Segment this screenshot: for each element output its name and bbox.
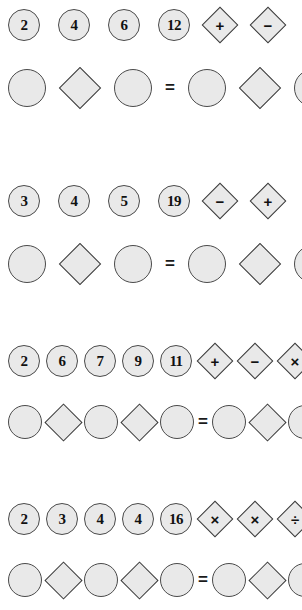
operator-label: ÷: [291, 512, 299, 527]
number-label: 6: [121, 18, 128, 33]
number-label: 4: [71, 18, 78, 33]
number-token[interactable]: 11: [160, 345, 192, 377]
answer-blank-circle[interactable]: [8, 405, 42, 439]
number-token[interactable]: 5: [108, 185, 140, 217]
number-label: 7: [97, 354, 104, 369]
answer-blank-diamond[interactable]: [247, 402, 287, 442]
answer-blank-diamond[interactable]: [43, 560, 83, 600]
diamond-shape: [44, 403, 82, 441]
answer-blank-circle[interactable]: [288, 563, 302, 597]
puzzle-2-answer-row: =: [0, 220, 302, 286]
number-label: 11: [170, 354, 183, 369]
answer-blank-circle[interactable]: [288, 405, 302, 439]
answer-blank-diamond[interactable]: [43, 402, 83, 442]
number-token[interactable]: 4: [58, 185, 90, 217]
diamond-shape: [44, 561, 82, 599]
diamond-shape: [248, 403, 286, 441]
diamond-shape: [120, 561, 158, 599]
number-token[interactable]: 2: [8, 345, 40, 377]
number-label: 2: [21, 512, 28, 527]
number-token[interactable]: 3: [46, 503, 78, 535]
puzzle-1-clue-row: 2 4 6 12 + −: [0, 0, 302, 44]
operator-label: −: [216, 194, 225, 209]
answer-blank-diamond[interactable]: [238, 66, 282, 110]
answer-blank-circle[interactable]: [160, 405, 194, 439]
number-token[interactable]: 7: [84, 345, 116, 377]
puzzle-4-answer-row: =: [0, 538, 302, 600]
number-label: 3: [59, 512, 66, 527]
operator-label: +: [216, 18, 225, 33]
answer-blank-diamond[interactable]: [58, 66, 102, 110]
diamond-shape: [239, 67, 281, 109]
answer-blank-circle[interactable]: [8, 245, 46, 283]
answer-blank-diamond[interactable]: [119, 560, 159, 600]
operator-label: ×: [211, 512, 220, 527]
operator-token[interactable]: ×: [196, 500, 234, 538]
answer-blank-diamond[interactable]: [238, 242, 282, 286]
answer-blank-circle[interactable]: [8, 563, 42, 597]
number-token[interactable]: 6: [46, 345, 78, 377]
answer-blank-circle[interactable]: [114, 69, 152, 107]
operator-token[interactable]: ×: [236, 500, 274, 538]
answer-blank-circle[interactable]: [212, 563, 246, 597]
answer-blank-circle[interactable]: [188, 69, 226, 107]
operator-label: ×: [251, 512, 260, 527]
equals-sign: =: [162, 254, 178, 274]
number-label: 5: [121, 194, 128, 209]
operator-token[interactable]: −: [201, 182, 239, 220]
operator-token[interactable]: ×: [276, 342, 302, 380]
number-token[interactable]: 4: [84, 503, 116, 535]
puzzle-4-clue-row: 2 3 4 4 16 ×: [0, 478, 302, 538]
operator-label: +: [211, 354, 220, 369]
puzzle-4: 2 3 4 4 16 ×: [0, 478, 302, 608]
operator-token[interactable]: +: [249, 182, 287, 220]
number-token[interactable]: 12: [158, 9, 190, 41]
number-token[interactable]: 16: [160, 503, 192, 535]
worksheet: 2 4 6 12 + −: [0, 0, 302, 610]
operator-token[interactable]: −: [236, 342, 274, 380]
operator-label: ×: [291, 354, 300, 369]
number-token[interactable]: 3: [8, 185, 40, 217]
number-label: 2: [21, 18, 28, 33]
answer-blank-circle[interactable]: [188, 245, 226, 283]
number-token[interactable]: 9: [122, 345, 154, 377]
operator-label: −: [251, 354, 260, 369]
answer-blank-circle[interactable]: [84, 563, 118, 597]
number-label: 4: [135, 512, 142, 527]
number-label: 6: [59, 354, 66, 369]
answer-blank-diamond[interactable]: [58, 242, 102, 286]
answer-blank-circle[interactable]: [294, 69, 302, 107]
operator-token[interactable]: +: [196, 342, 234, 380]
answer-blank-circle[interactable]: [114, 245, 152, 283]
number-token[interactable]: 2: [8, 503, 40, 535]
number-label: 9: [135, 354, 142, 369]
answer-blank-diamond[interactable]: [119, 402, 159, 442]
number-token[interactable]: 4: [58, 9, 90, 41]
operator-token[interactable]: +: [201, 6, 239, 44]
equals-sign: =: [196, 570, 210, 590]
diamond-shape: [59, 67, 101, 109]
answer-blank-circle[interactable]: [294, 245, 302, 283]
puzzle-1: 2 4 6 12 + −: [0, 0, 302, 160]
answer-blank-circle[interactable]: [84, 405, 118, 439]
number-token[interactable]: 2: [8, 9, 40, 41]
number-label: 16: [169, 512, 183, 527]
operator-token[interactable]: −: [249, 6, 287, 44]
diamond-shape: [120, 403, 158, 441]
answer-blank-circle[interactable]: [160, 563, 194, 597]
answer-blank-circle[interactable]: [212, 405, 246, 439]
answer-blank-circle[interactable]: [8, 69, 46, 107]
number-label: 4: [71, 194, 78, 209]
operator-token[interactable]: ÷: [276, 500, 302, 538]
puzzle-3-answer-row: =: [0, 380, 302, 442]
number-token[interactable]: 6: [108, 9, 140, 41]
number-token[interactable]: 19: [158, 185, 190, 217]
number-token[interactable]: 4: [122, 503, 154, 535]
number-label: 2: [21, 354, 28, 369]
puzzle-2: 3 4 5 19 − +: [0, 160, 302, 320]
number-label: 12: [167, 18, 181, 33]
operator-label: +: [264, 194, 273, 209]
answer-blank-diamond[interactable]: [247, 560, 287, 600]
number-label: 19: [167, 194, 181, 209]
puzzle-2-clue-row: 3 4 5 19 − +: [0, 160, 302, 220]
